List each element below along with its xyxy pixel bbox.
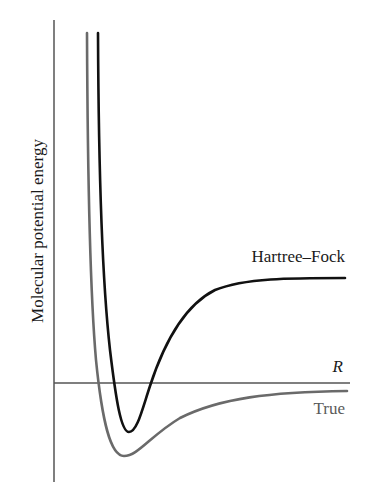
- y-axis-label: Molecular potential energy: [28, 139, 47, 323]
- true-curve: [87, 33, 347, 456]
- true-label: True: [314, 399, 346, 418]
- hartree-fock-curve: [98, 33, 345, 432]
- potential-energy-diagram: Molecular potential energy Hartree–Fock …: [0, 0, 371, 492]
- hartree-fock-label: Hartree–Fock: [252, 247, 346, 266]
- r-axis-label: R: [332, 357, 344, 376]
